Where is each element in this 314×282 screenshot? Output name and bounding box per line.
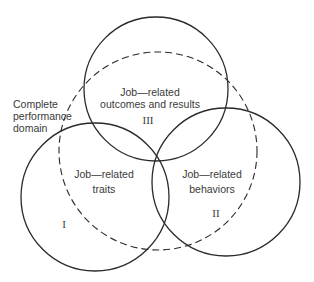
label-line: Job—related <box>100 86 200 98</box>
label-line: Job—related <box>74 168 134 180</box>
label-outcomes: Job—related outcomes and results <box>100 86 200 110</box>
label-traits: Job—related traits <box>74 168 134 195</box>
venn-circles <box>0 0 314 282</box>
label-line: domain <box>13 122 72 134</box>
label-line: behaviors <box>182 183 242 195</box>
label-complete-domain: Complete performance domain <box>13 98 72 134</box>
roman-numeral-iii: III <box>143 114 154 126</box>
roman-numeral-ii: II <box>212 207 219 219</box>
label-line: Job—related <box>182 168 242 180</box>
roman-numeral-i: I <box>62 218 66 230</box>
label-behaviors: Job—related behaviors <box>182 168 242 195</box>
label-line: Complete <box>13 98 72 110</box>
label-line: traits <box>74 183 134 195</box>
venn-diagram: Complete performance domain Job—related … <box>0 0 314 282</box>
label-line: outcomes and results <box>100 98 200 110</box>
label-line: performance <box>13 110 72 122</box>
circle-traits <box>21 123 169 271</box>
